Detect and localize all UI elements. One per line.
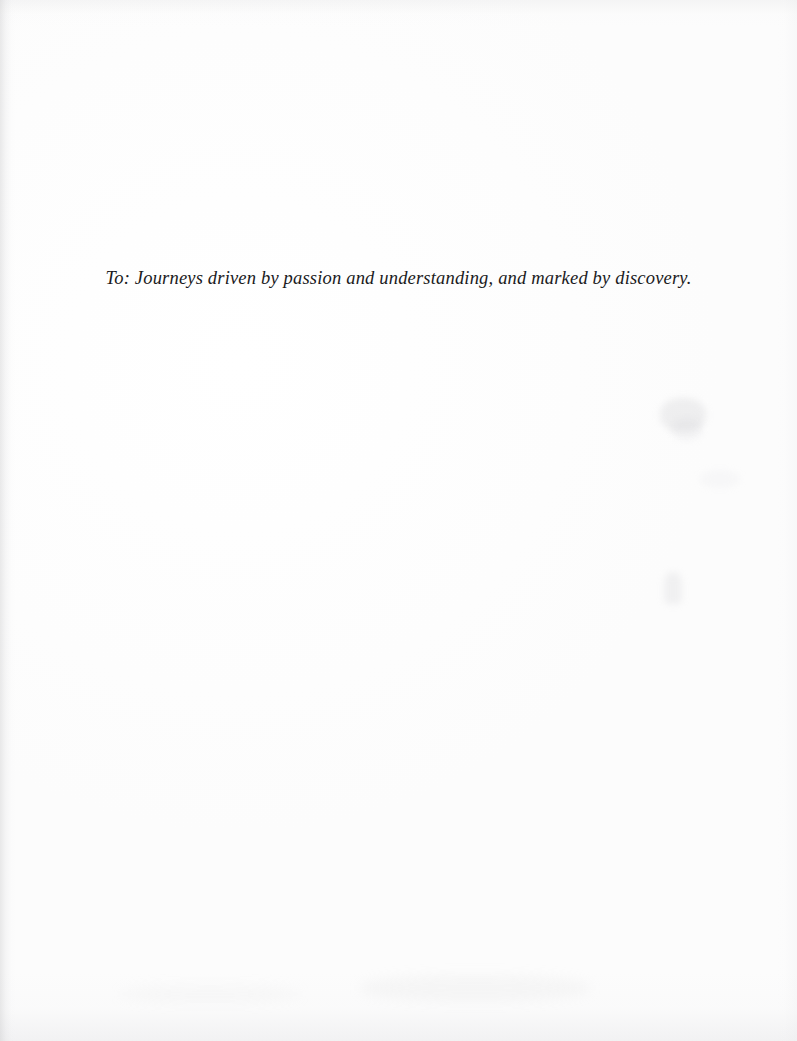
- bleed-through-smudge: [664, 572, 682, 604]
- bleed-through-smudge: [120, 985, 300, 1003]
- dedication-page: To: Journeys driven by passion and under…: [0, 0, 797, 1041]
- bleed-through-smudge: [672, 418, 702, 440]
- bleed-through-smudge: [360, 975, 590, 1001]
- page-top-edge-shading: [0, 0, 797, 26]
- dedication-text: To: Journeys driven by passion and under…: [105, 266, 691, 290]
- bleed-through-smudge: [660, 398, 706, 432]
- bleed-through-smudge: [700, 470, 740, 488]
- page-bottom-edge-shading: [0, 971, 797, 1041]
- page-gutter-shadow: [0, 0, 16, 1041]
- dedication-block: To: Journeys driven by passion and under…: [0, 266, 797, 290]
- page-right-edge-shading: [775, 0, 797, 1041]
